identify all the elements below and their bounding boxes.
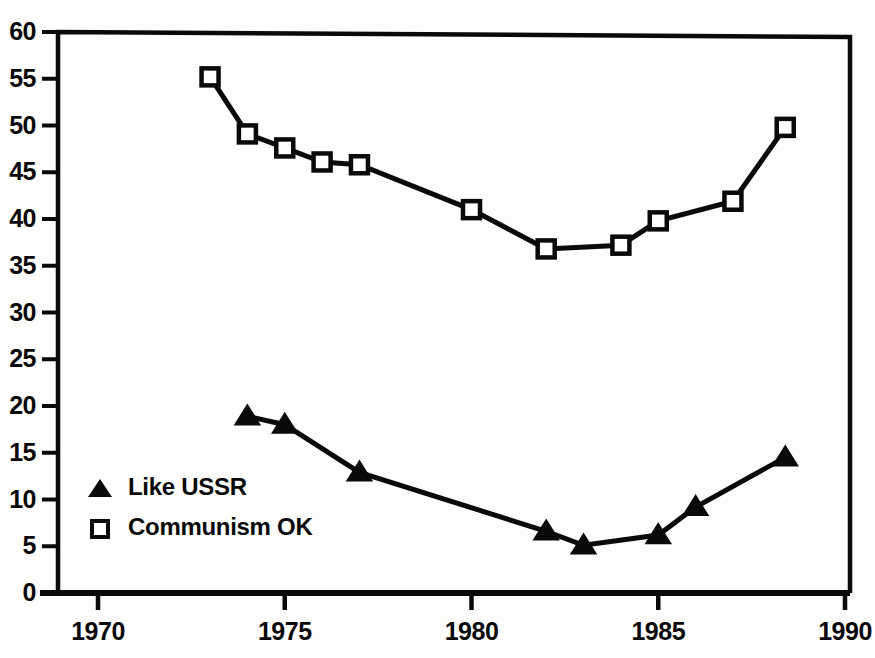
marker-square [612,237,629,254]
y-tick-label: 15 [0,438,36,467]
x-tick-label: 1985 [608,617,708,646]
y-tick-label: 25 [0,344,36,373]
x-tick-label: 1975 [235,617,335,646]
y-tick-label: 10 [0,485,36,514]
marker-square [538,240,555,257]
y-tick-label: 35 [0,251,36,280]
legend-markers [88,479,112,537]
y-tick-label: 55 [0,64,36,93]
marker-square [650,212,667,229]
marker-square [239,125,256,142]
y-tick-label: 60 [0,17,36,46]
marker-square [351,156,368,173]
plot-frame [58,32,850,593]
marker-square [724,193,741,210]
marker-square [314,153,331,170]
series-1 [236,406,797,553]
x-tick-label: 1980 [422,617,522,646]
series-line [247,416,785,545]
marker-square [276,139,293,156]
marker-square [777,119,794,136]
y-tick-label: 20 [0,391,36,420]
series-line [210,77,785,249]
y-tick-label: 45 [0,157,36,186]
line-chart: 051015202530354045505560 197019751980198… [0,0,875,658]
y-tick-label: 30 [0,298,36,327]
legend-marker-triangle [88,479,112,497]
y-tick-label: 40 [0,204,36,233]
chart-canvas [0,0,875,658]
series-2 [202,68,794,257]
marker-triangle [774,447,797,465]
data-series [202,68,797,553]
x-tick-label: 1970 [48,617,148,646]
marker-square [202,68,219,85]
marker-triangle [236,406,259,424]
x-tick-label: 1990 [795,617,875,646]
y-tick-label: 50 [0,111,36,140]
marker-square [463,201,480,218]
y-tick-label: 5 [0,531,36,560]
legend-marker-square [92,521,108,537]
legend-item-label: Communism OK [128,513,312,541]
legend-item-label: Like USSR [128,473,247,501]
marker-triangle [684,496,707,514]
y-tick-label: 0 [0,578,36,607]
